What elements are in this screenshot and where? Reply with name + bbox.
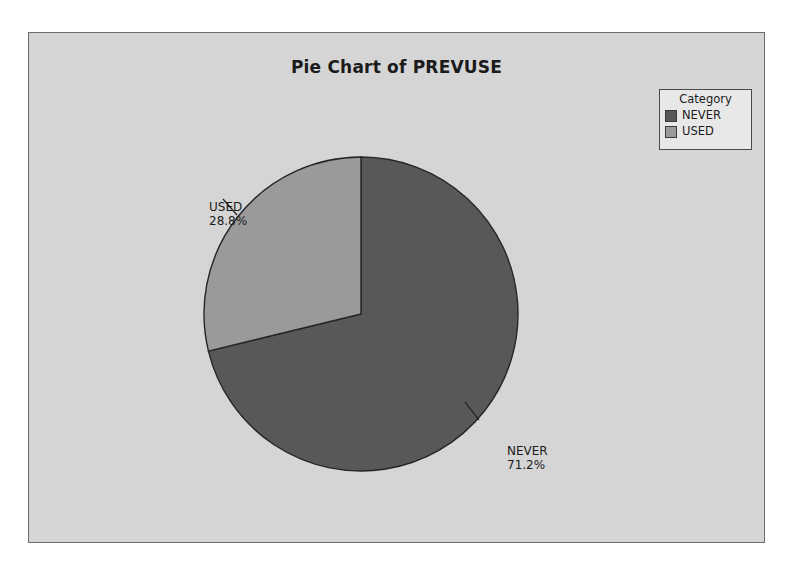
pie-label-used-value: 28.8% [209, 215, 247, 229]
legend-swatch-used [665, 126, 677, 138]
chart-screenshot: Pie Chart of PREVUSE USED 28.8% NEVER 71… [0, 0, 790, 570]
pie-chart-graphic [29, 33, 766, 544]
pie-label-used-name: USED [209, 201, 247, 215]
legend-label-used: USED [682, 124, 714, 139]
pie-label-never-name: NEVER [507, 445, 548, 459]
pie-slices [204, 157, 518, 471]
legend-item-used[interactable]: USED [665, 124, 746, 139]
legend-label-never: NEVER [682, 108, 721, 123]
legend-swatch-never [665, 110, 677, 122]
legend: Category NEVER USED [659, 89, 752, 150]
pie-label-never: NEVER 71.2% [507, 445, 548, 472]
pie-label-never-value: 71.2% [507, 459, 548, 473]
pie-label-used: USED 28.8% [209, 201, 247, 228]
legend-title: Category [665, 92, 746, 107]
chart-frame: Pie Chart of PREVUSE USED 28.8% NEVER 71… [28, 32, 765, 543]
legend-item-never[interactable]: NEVER [665, 108, 746, 123]
